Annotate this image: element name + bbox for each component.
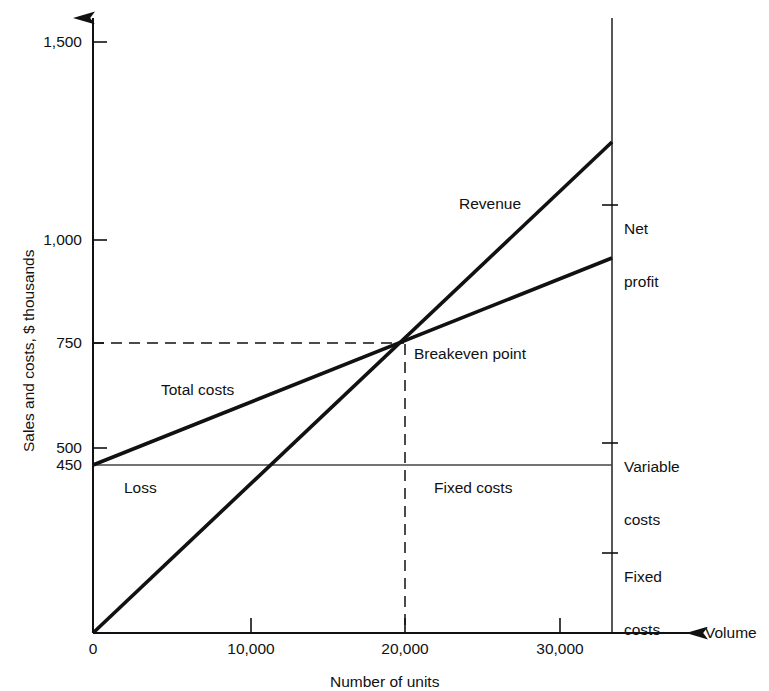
y-tick-label-750: 750 bbox=[10, 334, 82, 351]
variable-costs-line-2: costs bbox=[624, 511, 680, 529]
revenue-label: Revenue bbox=[459, 195, 521, 212]
x-tick-label-30000: 30,000 bbox=[510, 640, 610, 657]
variable-costs-line-1: Variable bbox=[624, 458, 680, 476]
x-axis-end-label: Volume bbox=[705, 624, 757, 641]
net-profit-bracket-label: Net profit bbox=[624, 184, 658, 327]
y-tick-marks bbox=[93, 42, 107, 448]
fixed-costs-line-2: costs bbox=[624, 621, 662, 639]
y-tick-label-500: 500 bbox=[10, 439, 82, 456]
y-tick-label-450: 450 bbox=[10, 456, 82, 473]
x-tick-label-0: 0 bbox=[73, 640, 113, 657]
y-tick-label-1000: 1,000 bbox=[10, 231, 82, 248]
breakeven-point-label: Breakeven point bbox=[414, 345, 526, 362]
fixed-costs-region-label: Fixed costs bbox=[434, 479, 512, 496]
total-costs-label: Total costs bbox=[161, 381, 234, 398]
fixed-costs-line-1: Fixed bbox=[624, 568, 662, 586]
x-tick-label-20000: 20,000 bbox=[355, 640, 455, 657]
x-tick-label-10000: 10,000 bbox=[201, 640, 301, 657]
breakeven-chart: Sales and costs, $ thousands 1,500 1,000… bbox=[0, 0, 769, 691]
fixed-costs-bracket-label: Fixed costs bbox=[624, 532, 662, 675]
loss-region-label: Loss bbox=[124, 479, 157, 496]
x-axis-title: Number of units bbox=[330, 673, 439, 690]
y-tick-label-1500: 1,500 bbox=[10, 33, 82, 50]
net-profit-line-1: Net bbox=[624, 220, 658, 238]
total-costs-line bbox=[93, 258, 612, 465]
net-profit-line-2: profit bbox=[624, 273, 658, 291]
